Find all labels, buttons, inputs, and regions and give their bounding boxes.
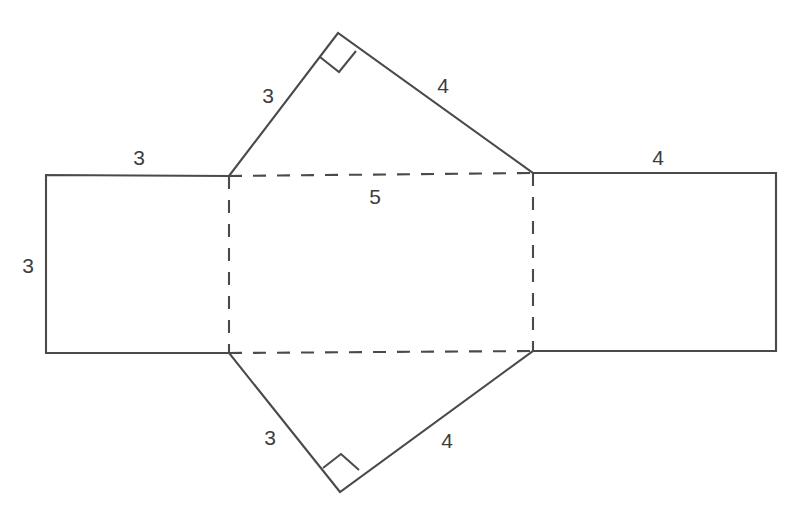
geometry-net-figure: 3 3 3 4 4 5 3 4	[0, 0, 800, 512]
dimension-label-center-rect-hypotenuse: 5	[369, 186, 381, 207]
dimension-label-top-triangle-right-leg: 4	[437, 75, 449, 96]
dimension-label-left-rect-side: 3	[22, 255, 34, 276]
dimension-label-left-rect-top: 3	[133, 147, 145, 168]
center-rectangle-bottom-fold	[229, 351, 533, 353]
top-triangle-legs	[229, 33, 533, 176]
bottom-triangle-legs	[229, 351, 533, 492]
dimension-label-right-rect-top: 4	[652, 147, 664, 168]
right-rectangle-outline	[533, 173, 776, 351]
net-diagram-svg	[0, 0, 800, 512]
center-rectangle-top-fold	[229, 173, 533, 176]
dimension-label-bottom-triangle-left-leg: 3	[264, 427, 276, 448]
dimension-label-bottom-triangle-right-leg: 4	[441, 430, 453, 451]
dimension-label-top-triangle-left-leg: 3	[262, 85, 274, 106]
bottom-right-angle-icon	[323, 454, 359, 470]
left-rectangle-outline	[46, 175, 229, 353]
top-right-angle-icon	[320, 51, 356, 72]
